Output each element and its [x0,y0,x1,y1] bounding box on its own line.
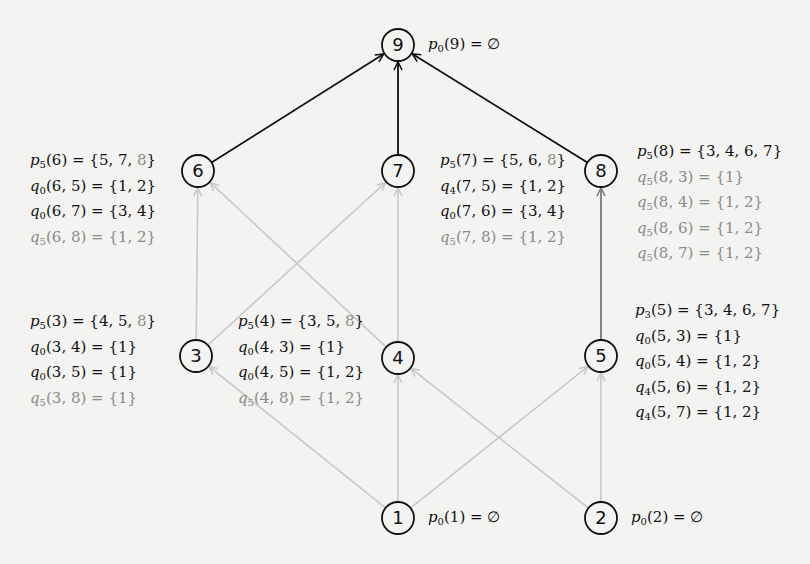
annotation-line: q0(3, 4) = {1} [30,337,156,363]
node-1-label: 1 [382,502,414,534]
annotation-line: p5(4) = {3, 5, 8} [238,311,364,337]
annotation-line: q0(7, 6) = {3, 4} [440,201,566,227]
node-4-label: 4 [382,342,414,374]
annotation-line: q0(5, 3) = {1} [635,326,780,352]
edge-3-to-6 [196,188,198,340]
annotation-line: q5(8, 6) = {1, 2} [637,218,782,244]
annotation-line: p5(8) = {3, 4, 6, 7} [637,141,782,167]
annotation-line: q0(3, 5) = {1} [30,362,156,388]
node-7-label: 7 [382,155,414,187]
annotation-line: q0(4, 5) = {1, 2} [238,362,364,388]
node-5-label: 5 [585,340,617,372]
annotation-line: q0(6, 7) = {3, 4} [30,201,156,227]
annotation-line: q5(6, 8) = {1, 2} [30,227,156,253]
annotation-n4: p5(4) = {3, 5, 8}q0(4, 3) = {1}q0(4, 5) … [238,311,364,413]
annotation-line: q5(3, 8) = {1} [30,388,156,414]
dag-diagram [0,0,810,564]
annotation-n8: p5(8) = {3, 4, 6, 7}q5(8, 3) = {1}q5(8, … [637,141,782,269]
edge-6-to-9 [212,54,384,162]
annotation-n7: p5(7) = {5, 6, 8}q4(7, 5) = {1, 2}q0(7, … [440,150,566,252]
annotation-line: q0(5, 4) = {1, 2} [635,351,780,377]
annotation-n5: p3(5) = {3, 4, 6, 7}q0(5, 3) = {1}q0(5, … [635,300,780,428]
annotation-line: p3(5) = {3, 4, 6, 7} [635,300,780,326]
annotation-line: p0(2) = ∅ [631,507,703,533]
annotation-line: p0(1) = ∅ [428,507,500,533]
annotation-line: q0(4, 3) = {1} [238,337,364,363]
node-9-label: 9 [382,29,414,61]
annotation-line: p5(6) = {5, 7, 8} [30,150,156,176]
annotation-n9: p0(9) = ∅ [428,34,500,60]
node-8-label: 8 [585,155,617,187]
annotation-line: q0(6, 5) = {1, 2} [30,176,156,202]
annotation-line: q5(8, 4) = {1, 2} [637,192,782,218]
annotation-n3: p5(3) = {4, 5, 8}q0(3, 4) = {1}q0(3, 5) … [30,311,156,413]
edge-8-to-9 [412,54,587,163]
node-2-label: 2 [585,502,617,534]
node-3-label: 3 [180,340,212,372]
annotation-line: q4(5, 7) = {1, 2} [635,402,780,428]
annotation-line: q4(5, 6) = {1, 2} [635,377,780,403]
annotation-line: q5(7, 8) = {1, 2} [440,227,566,253]
annotation-n6: p5(6) = {5, 7, 8}q0(6, 5) = {1, 2}q0(6, … [30,150,156,252]
node-6-label: 6 [182,155,214,187]
annotation-line: q5(8, 7) = {1, 2} [637,243,782,269]
annotation-line: q4(7, 5) = {1, 2} [440,176,566,202]
edge-layer [196,54,601,508]
annotation-line: q5(4, 8) = {1, 2} [238,388,364,414]
annotation-line: q5(8, 3) = {1} [637,167,782,193]
annotation-n2: p0(2) = ∅ [631,507,703,533]
annotation-line: p5(7) = {5, 6, 8} [440,150,566,176]
annotation-n1: p0(1) = ∅ [428,507,500,533]
annotation-line: p5(3) = {4, 5, 8} [30,311,156,337]
annotation-line: p0(9) = ∅ [428,34,500,60]
